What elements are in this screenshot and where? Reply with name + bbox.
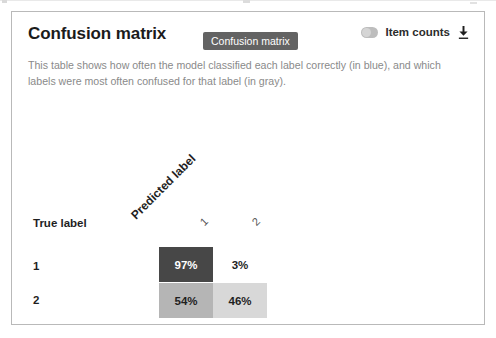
axis-title-true-label: True label [33,217,87,229]
matrix-cell[interactable]: 97% [159,247,213,282]
confusion-matrix-plot: Predicted label 1 2 True label 1 2 97% 3… [12,12,486,326]
matrix-cell[interactable]: 3% [213,247,267,282]
column-header-1: 1 [198,215,211,228]
axis-title-predicted-label: Predicted label [128,152,198,222]
screenshot-root: Confusion matrix Confusion matrix Item c… [0,0,496,338]
column-header-2: 2 [250,215,263,228]
outer-artifact-mid [243,0,250,3]
outer-artifact-left [2,0,7,3]
confusion-matrix-card: Confusion matrix Confusion matrix Item c… [11,11,485,325]
outer-artifact-right [470,2,477,4]
row-header-2: 2 [33,294,39,306]
matrix-cell[interactable]: 46% [213,283,267,318]
matrix-cell[interactable]: 54% [159,283,213,318]
row-header-1: 1 [33,260,39,272]
